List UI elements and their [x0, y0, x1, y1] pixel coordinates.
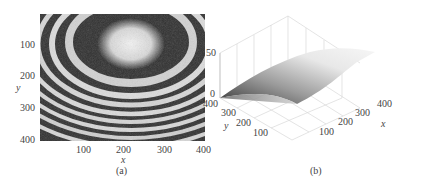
x-tick-400: 400 [377, 99, 392, 109]
x-tick-100: 100 [319, 127, 334, 137]
x-tick-100: 100 [76, 145, 91, 155]
y-tick-100: 100 [253, 128, 268, 138]
panel-a-fringe-image: 100 200 300 400 y 100 200 300 400 x (a) [0, 0, 215, 185]
y-tick-200: 200 [236, 118, 251, 128]
y-tick-100: 100 [20, 40, 35, 50]
caption-a: (a) [116, 166, 127, 176]
x-axis-label: x [381, 119, 385, 129]
x-tick-300: 300 [355, 108, 370, 118]
y-tick-400: 400 [203, 99, 218, 109]
y-tick-300: 300 [20, 103, 35, 113]
y-tick-300: 300 [221, 108, 236, 118]
surface-plot-svg [215, 0, 429, 185]
caption-b: (b) [310, 166, 322, 176]
y-axis-label: y [16, 83, 20, 93]
x-tick-300: 300 [157, 145, 172, 155]
panel-b-surface-plot: 50 0 400 300 200 100 y 100 200 300 400 x… [215, 0, 429, 185]
y-axis-label: y [224, 121, 228, 131]
x-axis-label: x [121, 155, 125, 165]
y-tick-200: 200 [20, 71, 35, 81]
fringe-pattern-svg [0, 0, 215, 185]
z-tick-50: 50 [206, 48, 216, 58]
x-tick-400: 400 [196, 145, 211, 155]
x-tick-200: 200 [338, 117, 353, 127]
y-tick-400: 400 [20, 135, 35, 145]
